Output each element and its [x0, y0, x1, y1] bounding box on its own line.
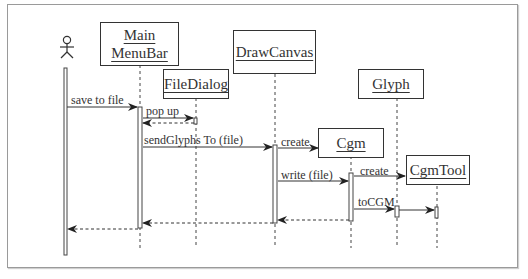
msg-label-tocgm: toCGM: [358, 196, 395, 208]
object-cgmtool: CgmTool: [406, 155, 470, 185]
msg-label-create-cgm: create: [281, 136, 310, 148]
msg-label-save-to-file: save to file: [71, 94, 124, 106]
object-glyph: Glyph: [358, 69, 424, 99]
object-filedialog: FileDialog: [163, 69, 229, 99]
activation-actor: [64, 68, 67, 255]
object-cgm: Cgm: [318, 128, 384, 158]
msg-label-sendglyphs: sendGlyphs To (file): [144, 134, 243, 146]
activation-drawcanvas: [273, 145, 277, 223]
msg-label-write-file: write (file): [281, 169, 333, 181]
stick-figure-icon: [60, 36, 74, 58]
activation-cgm: [349, 173, 353, 221]
activation-cgmtool: [435, 207, 438, 218]
activation-filedialog: [194, 118, 197, 124]
object-drawcanvas: DrawCanvas: [233, 30, 316, 74]
msg-label-pop-up: pop up: [146, 105, 179, 117]
activation-mainmenubar: [138, 107, 142, 228]
activation-glyph: [395, 206, 399, 217]
object-mainmenubar: Main MenuBar: [100, 22, 179, 66]
msg-label-create-cgmtool: create: [360, 165, 389, 177]
